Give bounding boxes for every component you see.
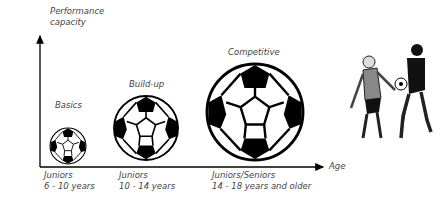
stage-group-competitive: Juniors/Seniors 14 - 18 years and older	[212, 170, 311, 192]
y-axis-label: Performance capacity	[50, 6, 104, 28]
stage-name-basics: Basics	[55, 100, 82, 111]
ball-basics	[50, 128, 86, 164]
ball-build-up	[114, 96, 178, 160]
stage-group-basics: Juniors 6 - 10 years	[44, 170, 95, 192]
players-illustration	[351, 44, 431, 138]
ball-competitive	[207, 64, 303, 160]
stage-name-competitive: Competitive	[228, 47, 280, 58]
x-axis-label: Age	[329, 161, 345, 172]
stage-name-build-up: Build-up	[129, 79, 164, 90]
stage-group-build-up: Juniors 10 - 14 years	[119, 170, 175, 192]
